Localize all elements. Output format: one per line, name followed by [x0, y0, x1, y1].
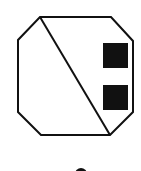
black-square-top: [103, 43, 128, 68]
diagonal-line: [40, 17, 110, 135]
bottom-marker-dot: [75, 168, 87, 171]
octagon-diagram: [0, 0, 141, 171]
black-square-bottom: [103, 85, 128, 110]
